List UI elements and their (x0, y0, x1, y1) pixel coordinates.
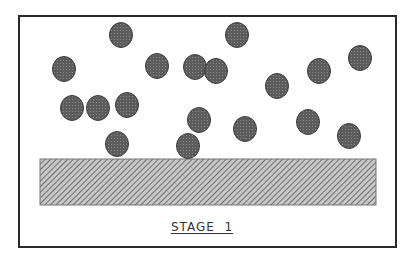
particle-circle (205, 59, 228, 84)
particle-circle (234, 117, 257, 142)
particle-circle (297, 110, 320, 135)
particle-circle (188, 108, 211, 133)
particle-circle (349, 46, 372, 71)
particle-circle (338, 124, 361, 149)
particle-circle (61, 96, 84, 121)
particle-circle (177, 134, 200, 159)
particle-circle (116, 93, 139, 118)
particle-circle (308, 59, 331, 84)
particle-circle (106, 132, 129, 157)
stage-label: STAGE 1 (160, 220, 244, 234)
particles-group (53, 23, 372, 159)
particle-circle (87, 96, 110, 121)
particle-circle (266, 74, 289, 99)
particle-circle (110, 23, 133, 48)
particle-circle (226, 23, 249, 48)
particle-circle (184, 55, 207, 80)
particle-circle (146, 54, 169, 79)
particle-circle (53, 57, 76, 82)
surface-block (40, 159, 376, 205)
